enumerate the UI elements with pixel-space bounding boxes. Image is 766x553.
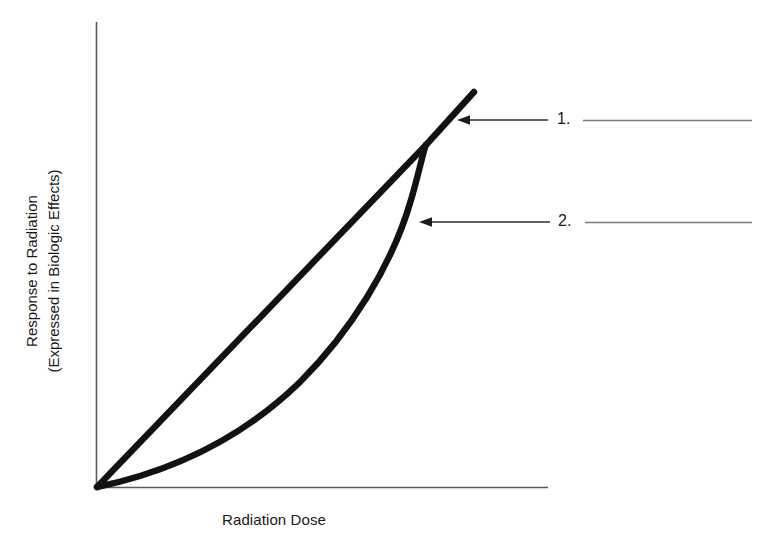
callout-2-leader — [419, 217, 550, 227]
linear-nonthreshold-curve — [97, 146, 426, 488]
callout-1-arrow-head — [457, 115, 470, 125]
y-axis-label-line-1: Response to Radiation — [21, 141, 43, 401]
y-axis-label-line-2: (Expressed in Biologic Effects) — [43, 141, 65, 401]
radiation-dose-response-figure: Response to Radiation (Expressed in Biol… — [0, 0, 766, 553]
y-axis-label: Response to Radiation (Expressed in Biol… — [21, 141, 65, 401]
x-axis-label: Radiation Dose — [0, 510, 548, 529]
callout-2-arrow-head — [419, 217, 432, 227]
callout-number-2: 2. — [558, 213, 571, 229]
callout-number-1: 1. — [557, 111, 570, 127]
callout-1-leader — [457, 115, 548, 125]
plot-canvas — [0, 0, 766, 553]
